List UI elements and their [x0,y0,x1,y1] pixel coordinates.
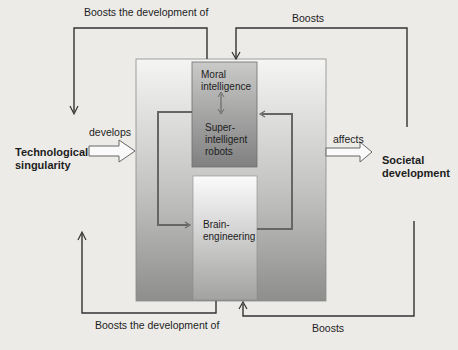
node-label-line: Societal [382,154,450,167]
node-label-line: Super- [205,122,247,134]
node-label-line: singularity [15,159,88,172]
edge-label-affects: affects [333,133,364,145]
develops-arrow [89,140,135,162]
edge-label-develops: develops [89,126,131,138]
node-label-line: Technological [15,146,88,159]
node-label-line: development [382,167,450,180]
node-label-line: intelligence [201,81,251,93]
node-label-line: intelligent [205,134,247,146]
node-moral-intelligence: Moral intelligence [201,69,251,93]
edge-label-top-right: Boosts [292,12,324,24]
node-label-line: Moral [201,69,251,81]
edge-label-bottom-right: Boosts [312,322,344,334]
edge-label-bottom-left: Boosts the development of [95,319,219,331]
node-brain-engineering: Brain- engineering [203,219,255,243]
edge-label-top-left: Boosts the development of [84,6,208,18]
node-societal-development: Societal development [382,154,450,180]
node-technological-singularity: Technological singularity [15,146,88,172]
affects-arrow [326,142,372,162]
node-label-line: Brain- [203,219,255,231]
node-super-intelligent-robots: Super- intelligent robots [205,122,247,158]
node-label-line: robots [205,146,247,158]
node-label-line: engineering [203,231,255,243]
